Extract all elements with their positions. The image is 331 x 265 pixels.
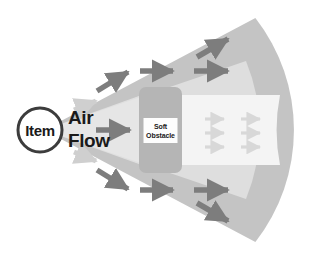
airflow-diagram: Soft Obstacle Item Air Flow [0, 0, 331, 265]
item-label: Item [25, 122, 55, 139]
upstream-lower-diagonal-icon [97, 170, 128, 189]
wake-region [178, 95, 280, 165]
soft-obstacle-label-line2: Obstacle [146, 132, 175, 139]
diagram-canvas: Soft Obstacle Item Air Flow [0, 0, 331, 265]
soft-obstacle-label-line1: Soft [154, 123, 168, 130]
airflow-label-line1: Air [68, 107, 94, 128]
airflow-label-line2: Flow [68, 130, 110, 151]
